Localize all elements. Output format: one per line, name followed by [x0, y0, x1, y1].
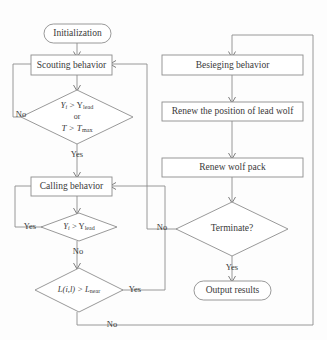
node-scouting-behavior[interactable]: Scouting behavior: [31, 55, 112, 75]
edge-label-calling-no: No: [73, 246, 83, 256]
node-decision-scouting-condition[interactable]: Yi > Ylead or T > Tmax: [21, 90, 133, 144]
node-renew-wolf-pack[interactable]: Renew wolf pack: [162, 158, 303, 177]
node-output-results[interactable]: Output results: [194, 281, 271, 300]
node-terminate-decision[interactable]: Terminate?: [176, 202, 288, 256]
node-besieging-behavior[interactable]: Besieging behavior: [162, 55, 303, 75]
renew-lead-label: Renew the position of lead wolf: [172, 106, 294, 116]
renew-pack-label: Renew wolf pack: [199, 162, 266, 172]
flowchart-svg: Initialization Scouting behavior Yi > Yl…: [0, 0, 327, 340]
terminate-label: Terminate?: [211, 223, 254, 233]
node-decision-distance-condition[interactable]: L(i,l) > Lnear: [35, 268, 123, 312]
besieging-label: Besieging behavior: [196, 60, 270, 70]
edge-label-scout-no: No: [16, 109, 26, 119]
node-calling-behavior[interactable]: Calling behavior: [31, 177, 112, 196]
edge-decision3-yes: [112, 186, 165, 290]
node-decision-calling-condition[interactable]: Yi > Ylead: [41, 213, 117, 241]
output-label: Output results: [206, 285, 260, 295]
flowchart-canvas: Initialization Scouting behavior Yi > Yl…: [0, 0, 327, 340]
edge-label-distance-yes: Yes: [129, 284, 141, 294]
decision-scouting-line2: or: [74, 112, 81, 121]
edge-label-terminate-yes: Yes: [226, 262, 238, 272]
edge-terminate-no: [112, 64, 195, 229]
calling-label: Calling behavior: [40, 181, 104, 191]
node-renew-lead-wolf[interactable]: Renew the position of lead wolf: [162, 102, 303, 121]
node-initialization[interactable]: Initialization: [44, 24, 111, 43]
edge-label-scout-yes: Yes: [71, 149, 83, 159]
scouting-label: Scouting behavior: [37, 60, 107, 70]
edge-label-distance-no: No: [107, 319, 117, 329]
edge-label-calling-yes: Yes: [24, 221, 36, 231]
initialization-label: Initialization: [53, 28, 102, 38]
edge-label-terminate-no: No: [157, 222, 167, 232]
